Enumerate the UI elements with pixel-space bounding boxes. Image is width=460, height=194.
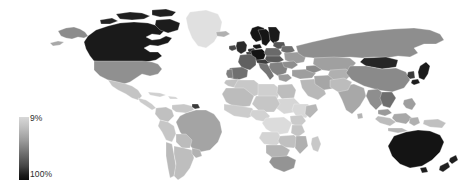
country-papua-new-guinea xyxy=(423,119,446,128)
country-colombia xyxy=(155,107,174,122)
country-philippines xyxy=(403,98,416,110)
country-tasmania xyxy=(420,167,428,173)
country-japan xyxy=(418,62,430,80)
country-canada-arctic-1 xyxy=(116,12,150,20)
country-iceland xyxy=(216,31,230,37)
country-south-africa xyxy=(269,156,296,172)
legend-bottom-label: 100% xyxy=(30,170,52,179)
country-sulawesi xyxy=(409,117,420,126)
country-canada-arctic-2 xyxy=(152,9,176,17)
world-map xyxy=(0,0,460,194)
country-united-kingdom xyxy=(236,41,247,54)
country-ireland xyxy=(229,45,237,51)
country-portugal xyxy=(226,69,233,78)
country-united-states xyxy=(94,61,162,84)
country-hispaniola xyxy=(168,96,178,99)
country-alaska-islands xyxy=(50,41,64,46)
country-angola xyxy=(259,132,282,146)
country-australia xyxy=(388,130,444,168)
country-alaska xyxy=(58,27,88,39)
legend-top-label: 9% xyxy=(30,114,43,123)
color-scale-legend xyxy=(19,117,29,180)
country-new-zealand-north xyxy=(449,155,458,164)
country-peru xyxy=(158,120,176,142)
country-egypt xyxy=(277,84,296,99)
world-map-svg xyxy=(0,0,460,194)
country-canada-arctic-3 xyxy=(100,18,118,24)
figure-canvas: 9% 100% xyxy=(0,0,460,194)
country-mozambique xyxy=(295,136,308,154)
country-madagascar xyxy=(311,136,321,152)
country-russia xyxy=(296,28,444,58)
country-greenland xyxy=(186,10,222,48)
country-greece xyxy=(278,74,292,82)
country-japan-south xyxy=(411,79,420,85)
country-central-america xyxy=(138,98,156,110)
country-argentina xyxy=(174,146,194,180)
color-scale-gradient-bar xyxy=(19,117,29,180)
country-malaysia xyxy=(378,109,392,116)
country-cuba xyxy=(148,92,166,97)
country-new-zealand-south xyxy=(439,162,450,172)
country-chad-niger xyxy=(252,96,280,112)
country-denmark xyxy=(253,44,262,49)
country-sri-lanka xyxy=(357,113,363,119)
country-vietnam-laos-cambodia xyxy=(380,92,396,108)
